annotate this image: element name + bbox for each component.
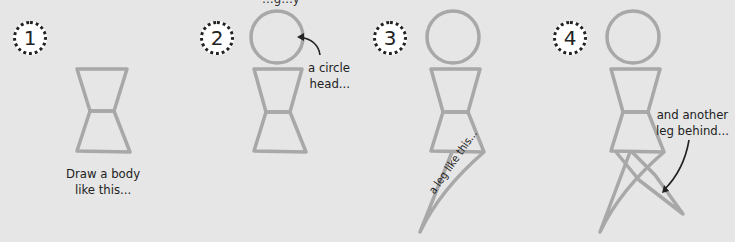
step-1-caption: Draw a body like this... bbox=[66, 166, 140, 198]
step-4-caption: and another leg behind... bbox=[656, 107, 729, 139]
step-2-caption: a circle head... bbox=[308, 60, 350, 92]
figure-drawings bbox=[0, 0, 735, 242]
arrow-to-back-leg bbox=[664, 140, 689, 190]
figure-1-body bbox=[77, 69, 130, 152]
drawing-steps: …g…y 1 2 3 4 bbox=[0, 0, 735, 242]
figure-3 bbox=[420, 11, 484, 232]
figure-2 bbox=[251, 11, 306, 152]
